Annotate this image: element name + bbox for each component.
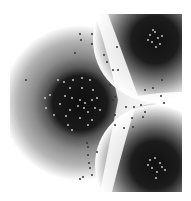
- sample-point: [86, 142, 88, 144]
- cluster-point: [72, 79, 74, 81]
- sample-point: [87, 154, 89, 156]
- cluster-point: [69, 87, 71, 89]
- sample-point: [160, 95, 162, 97]
- cluster-point: [67, 124, 69, 126]
- cluster-point: [69, 109, 71, 111]
- sample-point: [117, 69, 119, 71]
- cluster-point: [157, 37, 159, 39]
- cluster-point: [89, 79, 91, 81]
- cluster-point: [147, 39, 149, 41]
- sample-point: [144, 89, 146, 91]
- cluster-point: [79, 99, 81, 101]
- cluster-point: [49, 94, 51, 96]
- cluster-point: [71, 97, 73, 99]
- sample-point: [114, 124, 116, 126]
- sample-point: [140, 104, 142, 106]
- sample-point: [25, 79, 27, 81]
- sample-point: [152, 87, 154, 89]
- cluster-point: [161, 35, 163, 37]
- cluster-point: [84, 102, 86, 104]
- cluster-point: [155, 177, 157, 179]
- sample-point: [116, 46, 118, 48]
- cluster-point: [91, 119, 93, 121]
- cluster-point: [149, 159, 151, 161]
- cluster-point: [45, 107, 47, 109]
- cluster-point: [149, 34, 151, 36]
- sample-point: [74, 52, 76, 54]
- sample-point: [123, 127, 125, 129]
- cluster-point: [151, 167, 153, 169]
- sample-point: [91, 43, 93, 45]
- sample-point: [82, 176, 84, 178]
- sample-point: [79, 33, 81, 35]
- sample-point: [87, 146, 89, 148]
- sample-point: [131, 117, 133, 119]
- cluster-point: [59, 103, 61, 105]
- cluster-point: [77, 105, 79, 107]
- sample-point: [103, 54, 105, 56]
- sample-point: [161, 79, 163, 81]
- sample-point: [91, 33, 93, 35]
- sample-point: [109, 84, 111, 86]
- cluster-point: [53, 114, 55, 116]
- density-figure: [0, 0, 191, 201]
- cluster-point: [147, 164, 149, 166]
- sample-point: [80, 39, 82, 41]
- cluster-point: [154, 157, 156, 159]
- cluster-point: [44, 97, 46, 99]
- sample-point: [132, 126, 134, 128]
- cluster-point: [152, 29, 154, 31]
- sample-point: [106, 61, 108, 63]
- cluster-point: [64, 95, 66, 97]
- sample-point: [142, 116, 144, 118]
- sample-point: [96, 151, 98, 153]
- sample-point: [133, 106, 135, 108]
- sample-point: [112, 99, 114, 101]
- sample-point: [114, 114, 116, 116]
- cluster-point: [164, 169, 166, 171]
- cluster-point: [94, 107, 96, 109]
- cluster-point: [81, 77, 83, 79]
- sample-point: [163, 102, 165, 104]
- cluster-point: [159, 43, 161, 45]
- sample-point: [88, 162, 90, 164]
- sample-point: [89, 167, 91, 169]
- cluster-point: [71, 129, 73, 131]
- cluster-point: [151, 41, 153, 43]
- cluster-point: [91, 99, 93, 101]
- sample-point: [125, 106, 127, 108]
- density-plot: [0, 0, 191, 201]
- cluster-point: [156, 171, 158, 173]
- cluster-point: [63, 81, 65, 83]
- cluster-point: [161, 166, 163, 168]
- cluster-point: [96, 97, 98, 99]
- cluster-point: [65, 115, 67, 117]
- cluster-point: [87, 124, 89, 126]
- sample-point: [79, 178, 81, 180]
- cluster-point: [57, 79, 59, 81]
- cluster-point: [99, 109, 101, 111]
- sample-point: [144, 111, 146, 113]
- cluster-point: [87, 111, 89, 113]
- cluster-point: [154, 31, 156, 33]
- cluster-point: [79, 117, 81, 119]
- sample-point: [112, 69, 114, 71]
- cluster-point: [81, 87, 83, 89]
- cluster-point: [83, 107, 85, 109]
- sample-point: [114, 96, 116, 98]
- cluster-point: [92, 89, 94, 91]
- cluster-point: [159, 162, 161, 164]
- cluster-point: [155, 46, 157, 48]
- sample-point: [91, 174, 93, 176]
